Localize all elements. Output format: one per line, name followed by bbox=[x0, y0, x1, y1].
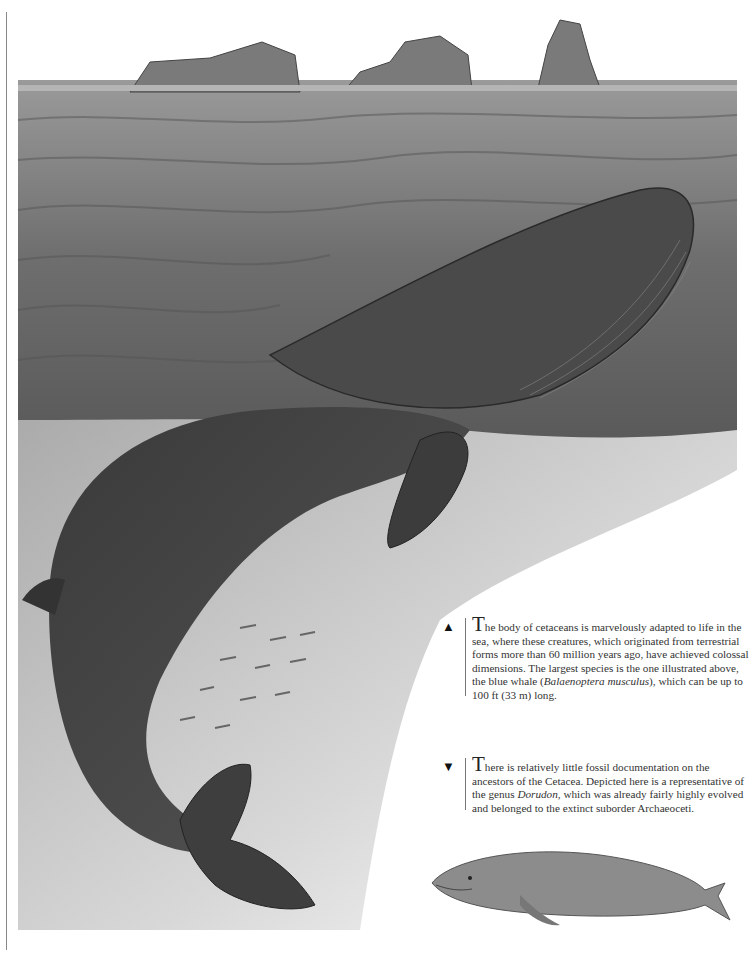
caption-blue-whale: ▲ The body of cetaceans is marvelously a… bbox=[442, 618, 722, 698]
triangle-down-icon: ▼ bbox=[442, 760, 455, 773]
caption-dorudon: ▼ There is relatively little fossil docu… bbox=[442, 758, 722, 813]
dropcap: T bbox=[472, 752, 485, 776]
caption-rule bbox=[465, 618, 466, 696]
triangle-up-icon: ▲ bbox=[442, 620, 455, 633]
caption-text: The body of cetaceans is marvelously ada… bbox=[472, 618, 752, 703]
caption-text: There is relatively little fossil docume… bbox=[472, 758, 752, 815]
dorudon-illustration bbox=[432, 852, 730, 925]
caption-rule bbox=[465, 758, 466, 810]
species-name: Balaenoptera musculus bbox=[544, 675, 649, 687]
dropcap: T bbox=[472, 612, 485, 636]
genus-name: Dorudon bbox=[517, 788, 557, 800]
